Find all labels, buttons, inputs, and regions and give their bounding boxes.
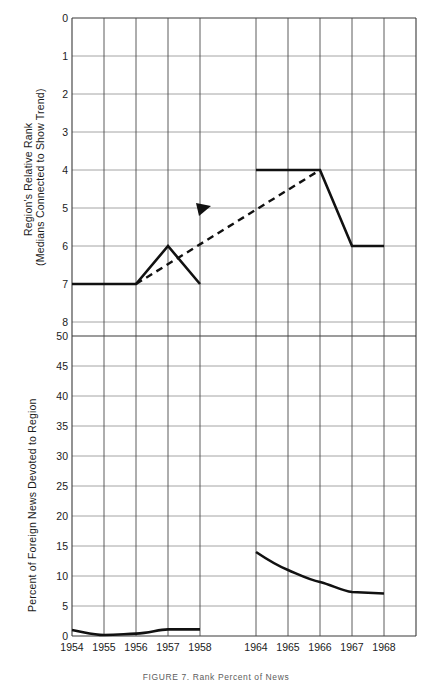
figure-root: Region's Relative Rank (Medians Connecte…	[0, 0, 432, 683]
figure-caption: FIGURE 7. Rank Percent of News	[0, 672, 432, 683]
rank-trend-arrowhead	[196, 203, 211, 216]
percent-grid	[72, 336, 416, 636]
xtick-1968: 1968	[364, 641, 404, 653]
rank-trend-dashed-line	[136, 170, 320, 284]
xtick-1958: 1958	[180, 641, 220, 653]
rank-grid	[72, 18, 416, 336]
plot-canvas	[0, 0, 432, 683]
